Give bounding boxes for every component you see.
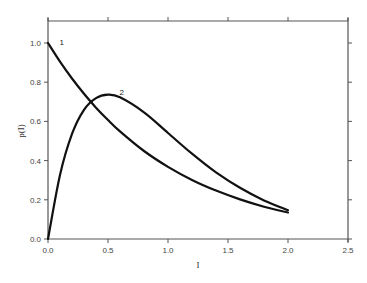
plot-frame [48, 18, 348, 242]
x-tick-label: 2.5 [342, 246, 354, 255]
x-tick-label: 1.0 [162, 246, 174, 255]
y-tick-label: 0.6 [30, 117, 42, 126]
x-tick-label: 0.0 [42, 246, 54, 255]
y-axis-label: p(I) [16, 124, 26, 138]
y-tick-label: 1.0 [30, 39, 42, 48]
axis-ticks [44, 17, 352, 243]
line-chart: 0.00.51.01.52.02.5 0.00.20.40.60.81.0 12… [0, 0, 367, 283]
x-tick-label: 0.5 [102, 246, 114, 255]
x-tick-label: 2.0 [282, 246, 294, 255]
x-axis-label: I [197, 260, 200, 270]
y-tick-label: 0.0 [30, 235, 42, 244]
curve-labels: 12 [60, 38, 125, 97]
data-curves [48, 43, 288, 239]
y-tick-label: 0.4 [30, 157, 42, 166]
x-tick-label: 1.5 [222, 246, 234, 255]
x-tick-labels: 0.00.51.01.52.02.5 [42, 246, 354, 255]
curve-1 [48, 43, 288, 213]
y-tick-labels: 0.00.20.40.60.81.0 [30, 39, 42, 244]
y-tick-label: 0.8 [30, 78, 42, 87]
curve-label-2: 2 [120, 88, 125, 97]
y-tick-label: 0.2 [30, 196, 42, 205]
curve-label-1: 1 [60, 38, 65, 47]
